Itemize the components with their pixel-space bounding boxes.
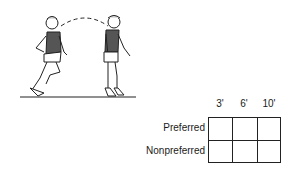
cell-nonpreferred-3ft[interactable]: [209, 141, 233, 163]
column-header-10ft: 10': [257, 98, 281, 109]
hopping-child-illustration: [0, 0, 160, 110]
column-header-3ft: 3': [208, 98, 232, 109]
trajectory-dashed-arc: [61, 18, 108, 26]
right-child-figure: [104, 16, 130, 97]
row-label-preferred: Preferred: [163, 122, 205, 133]
column-header-6ft: 6': [232, 98, 256, 109]
left-child-figure: [30, 17, 67, 97]
cell-preferred-6ft[interactable]: [233, 118, 257, 140]
row-label-nonpreferred: Nonpreferred: [146, 145, 205, 156]
cell-preferred-3ft[interactable]: [209, 118, 233, 140]
cell-nonpreferred-6ft[interactable]: [233, 141, 257, 163]
cell-nonpreferred-10ft[interactable]: [257, 141, 281, 163]
cell-preferred-10ft[interactable]: [257, 118, 281, 140]
scoring-grid: [208, 117, 281, 163]
